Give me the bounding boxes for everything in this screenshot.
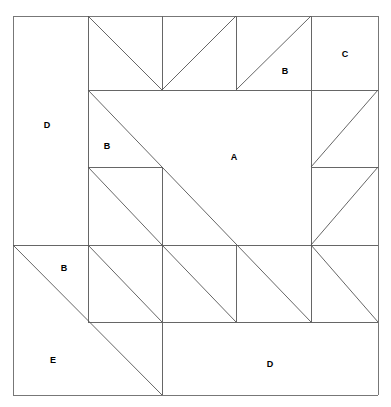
d-mid-left	[88, 167, 162, 245]
d-top-3	[236, 16, 311, 90]
d-main-long	[88, 90, 311, 322]
label-c: C	[342, 50, 349, 59]
d-right-up-1	[311, 90, 378, 167]
label-b-low: B	[61, 264, 68, 273]
label-b-top: B	[282, 67, 289, 76]
block-border	[13, 16, 378, 395]
d-top-1	[88, 16, 162, 90]
label-d-left: D	[44, 121, 51, 130]
d-top-2	[162, 16, 236, 90]
quilt-block-diagram: CBDBABED	[0, 0, 391, 407]
label-e: E	[50, 356, 56, 365]
label-d-bottom: D	[267, 360, 274, 369]
d-right-up-2	[311, 167, 378, 245]
d-mid-c3	[162, 245, 236, 322]
label-a: A	[231, 153, 238, 162]
grid-lines	[13, 16, 378, 395]
label-b-mid: B	[104, 142, 111, 151]
diagonal-seam-lines	[13, 16, 378, 395]
quilt-block-canvas	[0, 0, 391, 407]
d-right-dn-1	[311, 245, 378, 322]
d-mid-left-2	[88, 245, 162, 322]
